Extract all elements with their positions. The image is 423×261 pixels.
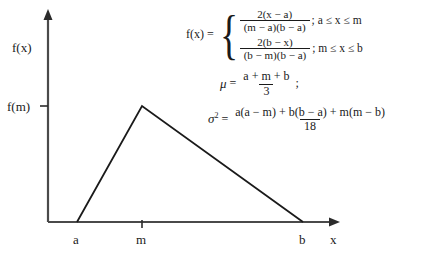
mu-symbol: μ bbox=[220, 77, 230, 91]
mean-trailing-semicolon: ; bbox=[294, 77, 299, 90]
pdf-formula: f(x) = { 2(x − a) (m − a)(b − a) ; a ≤ x… bbox=[186, 8, 423, 61]
y-axis-tick-label-fm: f(m) bbox=[7, 99, 30, 115]
pdf-cases: 2(x − a) (m − a)(b − a) ; a ≤ x ≤ m 2(b … bbox=[240, 8, 363, 61]
mean-equals-sign: = bbox=[230, 77, 240, 90]
pdf-lhs: f(x) = bbox=[186, 28, 216, 41]
variance-formula: σ2 = a(a − m) + b(b − a) + m(m − b) 18 bbox=[186, 106, 423, 133]
variance-numerator: a(a − m) + b(b − a) + m(m − b) bbox=[231, 106, 389, 119]
variance-equals-sign: = bbox=[221, 113, 231, 126]
x-axis-label: x bbox=[330, 232, 337, 248]
x-axis-arrowhead bbox=[329, 218, 340, 227]
pdf-case-1-fraction: 2(x − a) (m − a)(b − a) bbox=[240, 8, 310, 33]
variance-fraction: a(a − m) + b(b − a) + m(m − b) 18 bbox=[231, 106, 389, 133]
variance-denominator: 18 bbox=[300, 119, 320, 133]
pdf-case-1: 2(x − a) (m − a)(b − a) ; a ≤ x ≤ m bbox=[240, 8, 363, 33]
x-axis-tick-label-a: a bbox=[73, 232, 79, 248]
formula-block: f(x) = { 2(x − a) (m − a)(b − a) ; a ≤ x… bbox=[186, 8, 423, 133]
pdf-case-1-denominator: (m − a)(b − a) bbox=[240, 20, 310, 33]
sigma-exponent: 2 bbox=[214, 111, 218, 120]
mean-formula: μ = a + m + b 3 ; bbox=[186, 70, 423, 97]
pdf-case-2-denominator: (b − m)(b − a) bbox=[240, 48, 311, 61]
mean-denominator: 3 bbox=[259, 84, 273, 98]
mean-numerator: a + m + b bbox=[239, 70, 293, 83]
sigma-squared-symbol: σ2 bbox=[208, 112, 221, 127]
pdf-case-2: 2(b − x) (b − m)(b − a) ; m ≤ x ≤ b bbox=[240, 36, 363, 61]
x-axis-tick-label-b: b bbox=[299, 232, 306, 248]
pdf-case-2-numerator: 2(b − x) bbox=[253, 36, 297, 48]
y-axis-arrowhead bbox=[44, 9, 53, 20]
y-axis-label: f(x) bbox=[12, 40, 32, 56]
left-brace: { bbox=[220, 14, 238, 56]
pdf-case-2-condition: ; m ≤ x ≤ b bbox=[310, 42, 363, 55]
pdf-case-2-fraction: 2(b − x) (b − m)(b − a) bbox=[240, 36, 311, 61]
pdf-case-1-numerator: 2(x − a) bbox=[253, 8, 296, 20]
triangular-distribution-figure: f(x) f(m) a m b x f(x) = { 2(x − a) (m −… bbox=[0, 0, 423, 261]
x-axis-tick-label-m: m bbox=[136, 232, 146, 248]
mean-fraction: a + m + b 3 bbox=[239, 70, 293, 97]
pdf-case-1-condition: ; a ≤ x ≤ m bbox=[310, 14, 362, 27]
